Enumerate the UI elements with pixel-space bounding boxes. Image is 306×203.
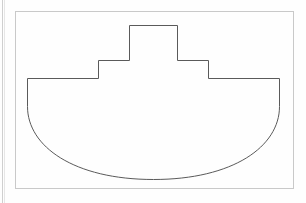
figure-page: Line drawing of a boat-shaped figure ins… <box>0 0 306 203</box>
line-drawing-canvas <box>0 0 306 203</box>
boat-outline <box>28 26 280 180</box>
figure-border-rectangle <box>16 12 294 189</box>
